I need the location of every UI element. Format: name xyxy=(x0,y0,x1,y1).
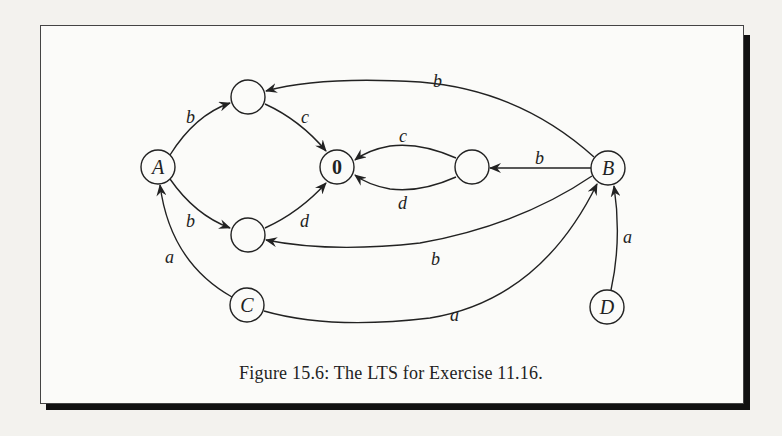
state-bot xyxy=(231,218,265,252)
edge-a-to-bot xyxy=(170,179,230,228)
edge-bot-to-zero xyxy=(265,183,326,228)
edge-label-a-top: b xyxy=(186,107,195,127)
edge-label-mid-zero-c: c xyxy=(399,126,407,146)
edge-label-c-b: a xyxy=(450,305,459,325)
edge-label-top-zero: c xyxy=(301,107,309,127)
edge-label-b-mid: b xyxy=(535,148,544,168)
state-top xyxy=(231,80,265,114)
edge-c-to-a xyxy=(160,185,232,297)
edge-d-to-b xyxy=(611,186,617,290)
edge-label-bot-zero: d xyxy=(300,211,310,231)
state-mid xyxy=(455,150,489,184)
edge-label-c-a: a xyxy=(165,247,174,267)
edge-mid-to-zero-c xyxy=(355,145,456,160)
edge-label-d-b: a xyxy=(623,227,632,247)
state-c-label: C xyxy=(240,294,254,316)
edge-label-mid-zero-d: d xyxy=(398,193,408,213)
state-b-label: B xyxy=(602,157,614,179)
edge-top-to-zero xyxy=(265,104,326,151)
figure-caption: Figure 15.6: The LTS for Exercise 11.16. xyxy=(0,363,782,384)
state-zero-label: 0 xyxy=(332,156,342,178)
edge-mid-to-zero-d xyxy=(355,175,456,190)
edge-label-b-top: b xyxy=(433,71,442,91)
state-a-label: A xyxy=(150,156,165,178)
state-d-label: D xyxy=(599,296,615,318)
edge-b-to-top xyxy=(266,80,594,157)
edge-a-to-top xyxy=(170,103,230,155)
edge-label-b-bot: b xyxy=(431,249,440,269)
edge-label-a-bot: b xyxy=(186,211,195,231)
